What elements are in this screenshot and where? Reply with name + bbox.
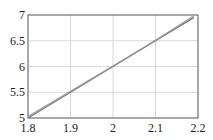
y-tick-label: 7 [19,8,25,22]
line-chart: 1.81.922.12.2 55.566.57 [0,0,213,140]
y-tick-label: 6.5 [10,34,25,48]
data-series [28,16,194,118]
y-axis-ticks: 55.566.57 [10,8,25,125]
x-tick-label: 2 [110,121,116,135]
x-tick-label: 2.2 [191,121,206,135]
x-tick-label: 2.1 [148,121,163,135]
y-tick-label: 5 [19,111,25,125]
y-tick-label: 6 [19,60,25,74]
x-axis-ticks: 1.81.922.12.2 [21,121,206,135]
y-tick-label: 5.5 [10,85,25,99]
x-tick-label: 1.9 [63,121,78,135]
